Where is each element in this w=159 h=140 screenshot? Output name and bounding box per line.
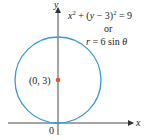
center-point-label: (0, 3) <box>29 75 51 87</box>
equation-connector: or <box>104 23 113 34</box>
polar-circle-diagram: (0, 3) y x 0 x2 + (y − 3)2 = 9 or r = 6 … <box>0 0 159 140</box>
x-axis-label: x <box>135 117 141 128</box>
diagram-canvas: (0, 3) y x 0 x2 + (y − 3)2 = 9 or r = 6 … <box>0 0 159 140</box>
equation-polar: r = 6 sin θ <box>86 36 127 47</box>
y-axis-label: y <box>53 0 59 10</box>
origin-label: 0 <box>49 125 54 136</box>
center-point-dot <box>56 78 61 83</box>
equation-cartesian: x2 + (y − 3)2 = 9 <box>67 9 132 22</box>
